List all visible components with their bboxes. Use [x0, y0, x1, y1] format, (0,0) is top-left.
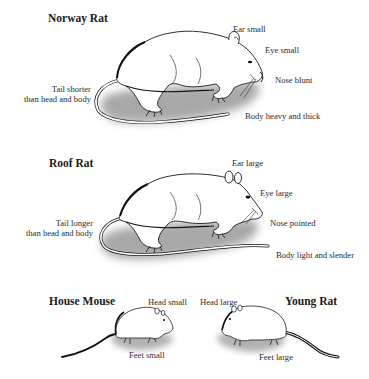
section-title-roof-rat: Roof Rat [49, 157, 93, 169]
young-rat-illustration [217, 305, 338, 357]
label-head-large: Head large [200, 297, 237, 307]
label-tail-shorter: Tail shorter than head and body [24, 84, 91, 104]
label-eye-small: Eye small [265, 45, 299, 55]
label-ear-large: Ear large [232, 158, 263, 168]
rodent-illustrations [0, 0, 369, 379]
label-tail-longer: Tail longer than head and body [26, 218, 93, 238]
norway-rat-illustration [96, 31, 263, 123]
section-title-house-mouse: House Mouse [49, 295, 115, 307]
label-tail-shorter-line1: Tail shorter [24, 84, 91, 94]
label-eye-large: Eye large [260, 188, 293, 198]
label-ear-small: Ear small [233, 24, 266, 34]
label-feet-small: Feet small [129, 350, 165, 360]
section-title-norway-rat: Norway Rat [48, 12, 108, 24]
label-body-light: Body light and slender [276, 250, 354, 260]
label-tail-longer-line1: Tail longer [26, 218, 93, 228]
label-tail-shorter-line2: than head and body [24, 94, 91, 104]
label-head-small: Head small [148, 297, 187, 307]
roof-rat-illustration [101, 171, 268, 259]
label-feet-large: Feet large [259, 352, 293, 362]
section-title-young-rat: Young Rat [285, 295, 337, 307]
label-tail-longer-line2: than head and body [26, 228, 93, 238]
label-nose-pointed: Nose pointed [270, 218, 316, 228]
label-nose-blunt: Nose blunt [275, 75, 312, 85]
label-body-heavy: Body heavy and thick [245, 111, 320, 121]
